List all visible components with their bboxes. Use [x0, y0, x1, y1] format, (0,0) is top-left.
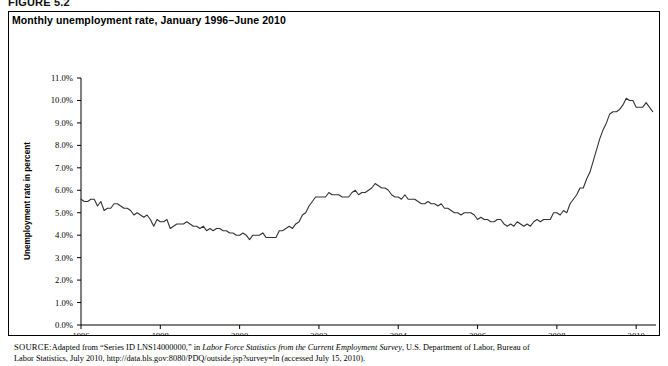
y-tick-label: 9.0%: [55, 118, 73, 128]
x-tick-label: 1998: [152, 331, 169, 336]
y-tick-label: 8.0%: [55, 140, 73, 150]
y-tick-label: 7.0%: [55, 163, 73, 173]
source-publication-title: Labor Force Statistics from the Current …: [202, 343, 402, 352]
x-tick-label: 2002: [310, 331, 327, 336]
y-tick-label: 10.0%: [51, 95, 73, 105]
x-tick-label: 1996: [72, 331, 90, 336]
y-tick-label: 11.0%: [51, 73, 73, 83]
chart-plot-area: 0.0%1.0%2.0%3.0%4.0%5.0%6.0%7.0%8.0%9.0%…: [8, 11, 660, 336]
y-tick-label: 0.0%: [55, 320, 73, 330]
source-prefix: SOURCE:: [14, 342, 52, 352]
x-tick-label: 2010: [628, 331, 645, 336]
source-note: SOURCE:Adapted from “Series ID LNS140000…: [14, 342, 664, 364]
y-axis-ticks: 0.0%1.0%2.0%3.0%4.0%5.0%6.0%7.0%8.0%9.0%…: [51, 73, 81, 330]
y-tick-label: 5.0%: [55, 208, 73, 218]
y-tick-label: 4.0%: [55, 230, 73, 240]
source-text-a: Adapted from “Series ID LNS14000000,” in: [52, 343, 202, 352]
x-tick-label: 2004: [390, 331, 408, 336]
figure-label: FIGURE 5.2: [8, 0, 70, 8]
x-tick-label: 2000: [231, 331, 248, 336]
x-axis-ticks: 19961998200020022004200620082010: [72, 325, 644, 336]
source-text-b: , U.S. Department of Labor, Bureau of: [402, 343, 530, 352]
unemployment-rate-line: [81, 98, 653, 239]
source-line-2: Labor Statistics, July 2010, http://data…: [14, 354, 664, 365]
y-tick-label: 1.0%: [55, 298, 73, 308]
y-tick-label: 3.0%: [55, 253, 73, 263]
line-chart-svg: 0.0%1.0%2.0%3.0%4.0%5.0%6.0%7.0%8.0%9.0%…: [8, 11, 660, 336]
y-tick-label: 2.0%: [55, 275, 73, 285]
y-tick-label: 6.0%: [55, 185, 73, 195]
y-axis-title: Unemployment rate in percent: [23, 142, 32, 260]
x-tick-label: 2008: [548, 331, 565, 336]
x-tick-label: 2006: [469, 331, 487, 336]
